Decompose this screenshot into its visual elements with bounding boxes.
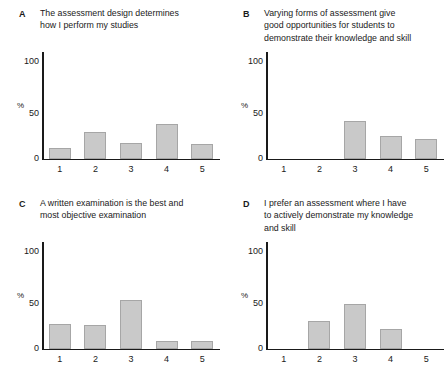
y-tick-0: 0: [17, 343, 39, 353]
y-tick-50: 50: [241, 108, 263, 118]
x-tick-b-1: 1: [269, 164, 299, 174]
bars-container-a: [42, 52, 220, 159]
figure-panel-grid: A The assessment design determines how I…: [0, 0, 448, 379]
bar-b-5: [415, 139, 437, 159]
bar-c-5: [191, 341, 213, 349]
bars-container-d: [266, 242, 444, 349]
y-tick-50: 50: [17, 298, 39, 308]
chart-panel-b: B Varying forms of assessment give good …: [224, 0, 448, 189]
plot-area-d: % 100 50 0 12345: [224, 190, 448, 379]
y-tick-100: 100: [241, 246, 263, 256]
bar-c-2: [84, 325, 106, 349]
x-tick-b-5: 5: [411, 164, 441, 174]
x-tick-d-1: 1: [269, 354, 299, 364]
y-tick-100: 100: [241, 56, 263, 66]
x-tick-c-2: 2: [80, 354, 110, 364]
x-tick-c-5: 5: [187, 354, 217, 364]
chart-panel-c: C A written examination is the best and …: [0, 190, 224, 379]
x-tick-a-2: 2: [80, 164, 110, 174]
x-tick-c-3: 3: [116, 354, 146, 364]
y-tick-100: 100: [17, 246, 39, 256]
x-tick-b-2: 2: [304, 164, 334, 174]
plot-area-b: % 100 50 0 12345: [224, 0, 448, 189]
bar-b-3: [344, 121, 366, 159]
bar-d-3: [344, 304, 366, 348]
plot-area-a: % 100 50 0 12345: [0, 0, 224, 189]
y-tick-50: 50: [241, 298, 263, 308]
bars-container-b: [266, 52, 444, 159]
y-tick-0: 0: [241, 153, 263, 163]
x-tick-d-5: 5: [411, 354, 441, 364]
bar-c-3: [120, 300, 142, 349]
y-tick-0: 0: [241, 343, 263, 353]
bar-a-4: [156, 124, 178, 159]
bar-a-1: [49, 148, 71, 158]
x-tick-d-2: 2: [304, 354, 334, 364]
bar-a-2: [84, 132, 106, 158]
x-tick-a-1: 1: [45, 164, 75, 174]
bar-d-2: [308, 321, 330, 348]
x-tick-b-3: 3: [340, 164, 370, 174]
x-tick-a-5: 5: [187, 164, 217, 174]
bar-c-1: [49, 324, 71, 349]
x-axis-line: [42, 159, 220, 161]
chart-panel-a: A The assessment design determines how I…: [0, 0, 224, 189]
x-tick-c-4: 4: [152, 354, 182, 364]
bar-d-4: [380, 329, 402, 349]
x-tick-a-3: 3: [116, 164, 146, 174]
x-tick-a-4: 4: [152, 164, 182, 174]
y-tick-50: 50: [17, 108, 39, 118]
x-tick-d-3: 3: [340, 354, 370, 364]
y-tick-100: 100: [17, 56, 39, 66]
bar-b-4: [380, 136, 402, 159]
x-tick-c-1: 1: [45, 354, 75, 364]
x-axis-line: [266, 349, 444, 351]
bar-a-5: [191, 144, 213, 158]
x-axis-line: [42, 349, 220, 351]
y-tick-0: 0: [17, 153, 39, 163]
bars-container-c: [42, 242, 220, 349]
x-axis-line: [266, 159, 444, 161]
x-tick-b-4: 4: [376, 164, 406, 174]
chart-panel-d: D I prefer an assessment where I have to…: [224, 190, 448, 379]
bar-c-4: [156, 341, 178, 349]
bar-a-3: [120, 143, 142, 158]
plot-area-c: % 100 50 0 12345: [0, 190, 224, 379]
x-tick-d-4: 4: [376, 354, 406, 364]
